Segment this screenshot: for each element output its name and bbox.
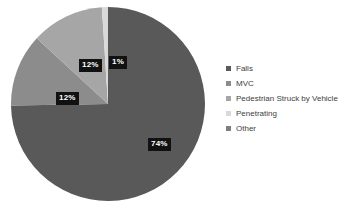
pie-plot-area: 74% 12% 12% 1% (11, 7, 205, 201)
legend-item-penetrating[interactable]: Penetrating (226, 106, 350, 121)
legend-label: MVC (236, 79, 254, 89)
legend-item-pedestrian-struck-by-vehicle[interactable]: Pedestrian Struck by Vehicle (226, 91, 350, 106)
legend-label: Pedestrian Struck by Vehicle (236, 94, 338, 104)
legend-swatch-icon (226, 111, 231, 116)
pie-svg (11, 7, 205, 201)
legend-swatch-icon (226, 81, 231, 86)
legend-label: Other (236, 124, 256, 134)
pie-slice-group (11, 7, 205, 201)
legend-label: Falls (236, 64, 253, 74)
chart-legend: FallsMVCPedestrian Struck by VehiclePene… (226, 61, 350, 136)
legend-item-mvc[interactable]: MVC (226, 76, 350, 91)
pie-chart: 74% 12% 12% 1% FallsMVCPedestrian Struck… (0, 0, 350, 206)
legend-swatch-icon (226, 66, 231, 71)
legend-swatch-icon (226, 126, 231, 131)
data-label-falls: 74% (148, 138, 171, 151)
legend-item-falls[interactable]: Falls (226, 61, 350, 76)
data-label-penetrating: 1% (109, 56, 127, 69)
data-label-mvc: 12% (56, 92, 79, 105)
legend-label: Penetrating (236, 109, 277, 119)
data-label-pedestrian: 12% (79, 59, 102, 72)
legend-swatch-icon (226, 96, 231, 101)
legend-item-other[interactable]: Other (226, 121, 350, 136)
